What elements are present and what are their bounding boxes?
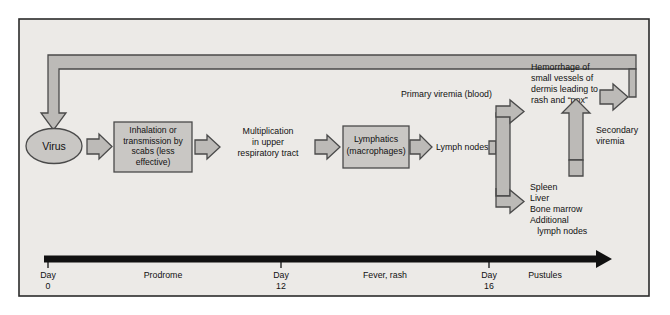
multiplication-line-3: respiratory tract bbox=[237, 148, 299, 158]
lymph-branch-trunk bbox=[496, 113, 510, 196]
virus-label: Virus bbox=[42, 140, 66, 152]
hemorrhage-line-2: small vessels of bbox=[531, 73, 594, 83]
multiplication-line-1: Multiplication bbox=[243, 126, 294, 136]
organ-line-1: Spleen bbox=[530, 182, 557, 192]
lymph-branch-stub bbox=[489, 141, 496, 154]
feedback-riser bbox=[629, 69, 636, 97]
secondary-viremia-stem bbox=[569, 160, 583, 176]
timeline-tick-16-bottom: 16 bbox=[484, 281, 494, 291]
inhalation-line-2: transmission by bbox=[123, 136, 183, 146]
lymph-nodes-label: Lymph nodes bbox=[436, 142, 489, 152]
inhalation-line-3: scabs (less bbox=[132, 146, 175, 156]
timeline-tick-12-top: Day bbox=[273, 270, 289, 280]
pathogenesis-diagram: Virus Inhalation or transmission by scab… bbox=[0, 0, 670, 315]
multiplication-line-2: in upper bbox=[252, 137, 284, 147]
timeline-tick-0-top: Day bbox=[40, 270, 56, 280]
primary-viremia-label: Primary viremia (blood) bbox=[401, 89, 492, 99]
inhalation-line-1: Inhalation or bbox=[129, 125, 176, 135]
timeline-interval-fever-rash: Fever, rash bbox=[363, 270, 407, 280]
lymphatics-line-2: (macrophages) bbox=[346, 146, 405, 156]
inhalation-line-4: effective) bbox=[136, 157, 171, 167]
timeline-tick-0-bottom: 0 bbox=[46, 281, 51, 291]
diagram-stage: Virus Inhalation or transmission by scab… bbox=[0, 0, 670, 315]
secondary-viremia-line-1: Secondary bbox=[596, 125, 639, 135]
timeline-interval-prodrome: Prodrome bbox=[144, 270, 183, 280]
timeline-tick-12-bottom: 12 bbox=[276, 281, 286, 291]
lymphatics-line-1: Lymphatics bbox=[354, 134, 399, 144]
hemorrhage-line-1: Hemorrhage of bbox=[531, 62, 590, 72]
timeline-interval-pustules: Pustules bbox=[528, 270, 562, 280]
secondary-viremia-line-2: viremia bbox=[596, 136, 624, 146]
organ-line-4: Additional bbox=[530, 215, 569, 225]
organ-line-2: Liver bbox=[530, 193, 549, 203]
organ-line-3: Bone marrow bbox=[530, 204, 583, 214]
timeline-tick-16-top: Day bbox=[481, 270, 497, 280]
organ-line-5: lymph nodes bbox=[530, 226, 588, 236]
hemorrhage-line-3: dermis leading to bbox=[531, 84, 598, 94]
